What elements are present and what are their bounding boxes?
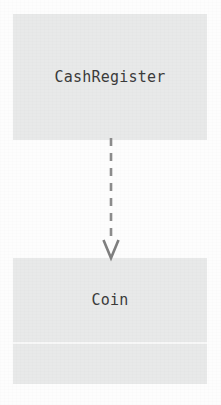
class-box-cashregister[interactable]: CashRegister xyxy=(13,14,207,140)
uml-class-diagram: CashRegister Coin xyxy=(0,0,221,405)
class-name-cashregister: CashRegister xyxy=(55,70,166,85)
class-name-coin: Coin xyxy=(92,293,129,308)
class-compartment-divider xyxy=(13,342,207,344)
dependency-arrow-cashregister-to-coin[interactable] xyxy=(91,136,131,264)
class-box-coin[interactable]: Coin xyxy=(13,258,207,384)
class-members-compartment xyxy=(13,342,207,384)
class-name-compartment: CashRegister xyxy=(13,14,207,140)
open-v-arrowhead-icon xyxy=(104,240,119,258)
class-name-compartment: Coin xyxy=(13,258,207,342)
